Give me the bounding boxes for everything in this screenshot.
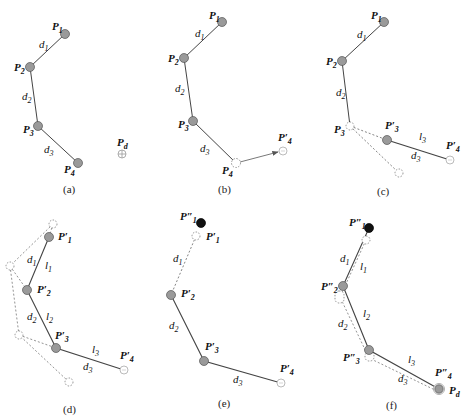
label-p4: P4 [64,163,75,178]
label-p3-prime: P′3 [55,329,69,344]
dashed-line [350,126,387,140]
label-p4-double-prime: P″4 [435,366,452,381]
chain-line [30,34,78,163]
label-p4-prime: P′4 [120,349,134,364]
label-d1: d1 [27,253,37,268]
joint-p3 [189,117,198,126]
arrow-icon [240,152,278,162]
label-p2-prime: P′2 [37,283,51,298]
panel-c: P1 P2 P3 P′3 P′4 d1 d2 l3 d3 (c) [326,9,460,198]
panel-e: P″1 P′1 P′2 P′3 P′4 d1 d2 d3 (e) [167,210,294,410]
label-p3-prime: P′3 [385,119,399,134]
label-p1: P1 [209,9,220,24]
joint-old [15,331,23,339]
label-p2-prime: P′2 [181,287,195,302]
label-d3: d3 [200,142,210,157]
label-p2-double-prime: P″2 [321,280,338,295]
label-d3: d3 [233,373,243,388]
label-d1: d1 [39,38,49,53]
label-d1: d1 [357,28,367,43]
joint-p4-old [232,159,241,168]
chain-line [27,237,124,370]
joint-old [65,378,73,386]
dashed-old-chain [10,224,69,382]
joint-p2 [338,57,347,66]
panel-b: P1 P2 P3 P4 P′4 d1 d2 d3 (b) [168,9,292,196]
caption-f: (f) [386,399,397,412]
label-p1-prime: P′1 [58,230,72,245]
label-l3: l3 [92,343,99,358]
label-d3: d3 [83,360,93,375]
joint-p1-prime-old [192,232,200,240]
caption-b: (b) [218,183,231,196]
joint-old [49,220,57,228]
label-d3: d3 [398,372,408,387]
label-p3-prime: P′3 [205,340,219,355]
label-p3: P3 [23,123,34,138]
label-p3-double-prime: P″3 [343,351,360,366]
label-l2: l2 [46,310,53,325]
label-d2: d2 [336,86,346,101]
label-p3: P3 [178,118,189,133]
label-d2: d2 [175,82,185,97]
label-p4: P4 [222,164,233,179]
label-d1: d1 [340,252,350,267]
label-d2: d2 [338,317,348,332]
caption-c: (c) [377,185,390,198]
joint-p3-prime [52,344,61,353]
label-p4-prime: P′4 [446,139,460,154]
label-d3: d3 [411,149,421,164]
label-l1: l1 [45,259,52,274]
target-icon [446,156,454,164]
label-l2: l2 [363,307,370,322]
label-d2: d2 [169,319,179,334]
joint-p4-double-prime [435,385,443,393]
joint-p1-double-prime [365,224,374,233]
target-icon [120,366,128,374]
panel-a: P1 P2 P3 P4 Pd d1 d2 d3 (a) [14,20,129,196]
joint-old [362,236,370,244]
dashed-line [350,126,399,173]
caption-e: (e) [218,397,231,410]
caption-a: (a) [63,183,76,196]
target-icon [277,379,285,387]
label-d1: d1 [173,252,183,267]
joint-p2-double-prime [339,282,348,291]
label-p2: P2 [168,52,179,67]
joint-p4-old [395,169,403,177]
joint-p2 [180,54,189,63]
label-l3: l3 [419,130,426,145]
joint-p1-double-prime [197,219,206,228]
label-p1: P1 [52,20,63,35]
label-d2: d2 [27,310,37,325]
joint-p3-prime [383,136,392,145]
label-l3: l3 [408,353,415,368]
label-pd: Pd [117,136,129,151]
target-icon [118,150,126,158]
joint-old [6,262,14,270]
panel-f: P″1 P″2 P″3 P″4 Pd d1 l1 d2 l2 l3 d3 (f) [321,216,461,412]
label-p1-prime: P′1 [206,230,220,245]
joint-p1-prime [45,233,54,242]
label-p2: P2 [14,61,25,76]
fabrik-diagram: P1 P2 P3 P4 Pd d1 d2 d3 (a) P1 P2 P3 P4 … [0,0,466,418]
chain-line [171,295,281,383]
label-p1-double-prime: P″1 [180,210,197,225]
joint-p3-old [346,122,354,130]
panel-d: P′1 P′2 P′3 P′4 d1 l1 d2 l2 l3 d3 (d) [6,220,134,416]
label-l1: l1 [360,260,367,275]
joint-p4 [74,159,83,168]
caption-d: (d) [63,403,76,416]
label-d1: d1 [195,27,205,42]
joint-p2-prime [167,291,176,300]
label-p1-double-prime: P″1 [349,216,366,231]
label-p2: P2 [326,55,337,70]
label-p4-prime: P′4 [280,362,294,377]
joint-p2 [26,63,35,72]
label-d3: d3 [44,143,54,158]
label-d2: d2 [22,90,32,105]
chain-line [184,22,236,163]
joint-p2-prime [23,286,32,295]
label-p3: P3 [334,123,345,138]
label-p1: P1 [371,9,382,24]
